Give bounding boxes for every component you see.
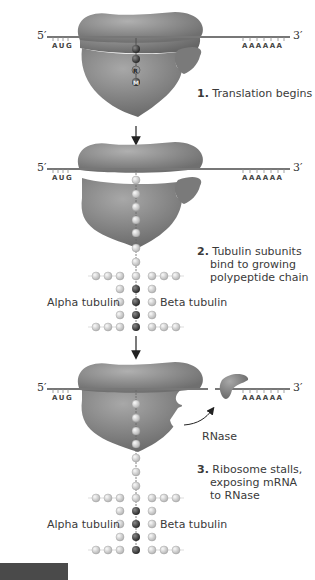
beta-tubulin-label-2: Beta tubulin <box>160 518 227 531</box>
five-prime-label-3: 5′ <box>37 381 47 394</box>
start-codon-label-1: AUG <box>52 42 73 50</box>
residue-r: R <box>133 67 138 74</box>
start-codon-label-3: AUG <box>52 394 73 402</box>
five-prime-label-1: 5′ <box>37 29 47 42</box>
step-3-caption: 3. Ribosome stalls, exposing mRNA to RNa… <box>197 463 302 502</box>
beta-tubulin-label-1: Beta tubulin <box>160 296 227 309</box>
rnase-label: RNase <box>202 430 237 443</box>
footer-dark-bar <box>0 563 68 580</box>
start-codon-label-2: AUG <box>52 174 73 182</box>
residue-m: M <box>133 79 139 86</box>
step-2-caption: 2. Tubulin subunits bind to growing poly… <box>197 245 308 284</box>
panel-1-translation-begins <box>47 12 290 141</box>
step-1-caption: 1. Translation begins <box>197 87 312 100</box>
poly-a-label-3: AAAAAA <box>242 394 284 402</box>
alpha-tubulin-label-1: Alpha tubulin <box>47 296 120 309</box>
alpha-tubulin-label-2: Alpha tubulin <box>47 518 120 531</box>
poly-a-label-1: AAAAAA <box>242 42 284 50</box>
three-prime-label-1: 3′ <box>293 29 303 42</box>
peptide-residues-2 <box>132 507 140 554</box>
five-prime-label-2: 5′ <box>37 161 47 174</box>
three-prime-label-3: 3′ <box>293 381 303 394</box>
three-prime-label-2: 3′ <box>293 161 303 174</box>
poly-a-label-2: AAAAAA <box>242 174 284 182</box>
